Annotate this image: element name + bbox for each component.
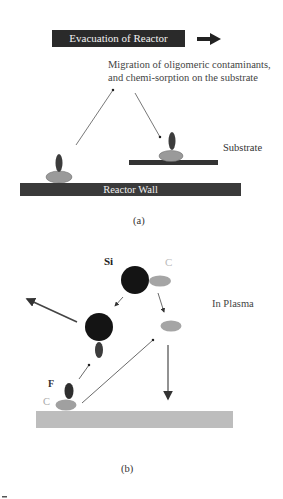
- plasma-surface: [36, 411, 233, 428]
- migration-line-left: [76, 90, 113, 145]
- f-atom-middle: [95, 342, 103, 358]
- arrow-si-escape: [27, 299, 77, 322]
- in-plasma-label: In Plasma: [212, 298, 254, 309]
- evacuation-arrow-icon: [197, 33, 221, 45]
- arrow-long-up: [82, 340, 153, 403]
- si-label: Si: [104, 255, 113, 267]
- arrow-short-up: [79, 365, 89, 379]
- migration-line-right: [135, 93, 160, 137]
- migration-note-line1: Migration of oligomeric contaminants,: [108, 58, 271, 71]
- reactor-wall: Reactor Wall: [20, 183, 241, 196]
- arrow-si-down: [115, 297, 123, 306]
- corner-mark: [2, 496, 7, 498]
- caption-b: (b): [121, 463, 133, 474]
- c-atom-top: [149, 276, 171, 287]
- si-atom-middle: [85, 313, 113, 341]
- contaminant-on-substrate: [159, 132, 183, 162]
- migration-note-line2: and chemi-sorption on the substrate: [108, 71, 271, 84]
- cf-on-surface: [56, 383, 77, 411]
- contaminant-on-wall: [46, 154, 72, 183]
- caption-a: (a): [133, 215, 145, 226]
- migration-note: Migration of oligomeric contaminants, an…: [108, 58, 271, 84]
- c-label-top: C: [165, 256, 172, 268]
- f-label: F: [48, 378, 54, 389]
- c-label-bottom: C: [43, 396, 50, 407]
- si-atom-top: [121, 266, 149, 294]
- arrow-c-down: [158, 293, 164, 312]
- evacuation-label: Evacuation of Reactor: [52, 30, 185, 47]
- c-atom-middle: [161, 321, 182, 332]
- substrate-label: Substrate: [223, 142, 262, 153]
